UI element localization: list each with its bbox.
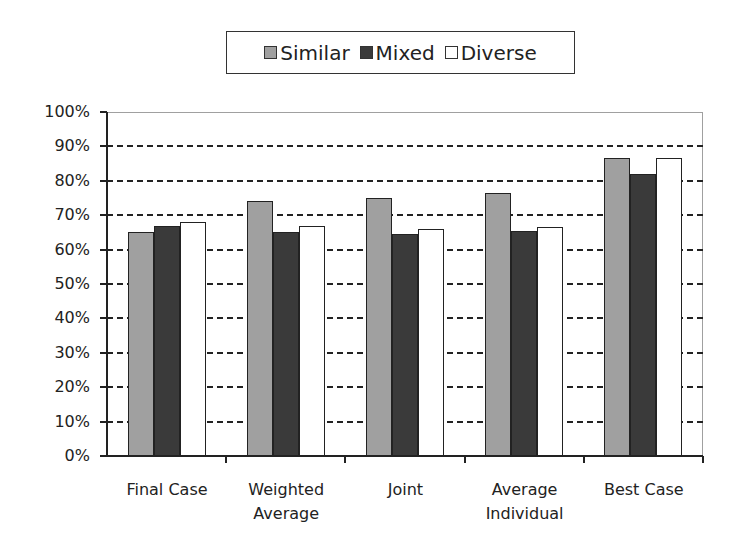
bar-diverse [656,158,682,456]
legend-item-diverse: Diverse [445,41,537,65]
y-tick-label: 100% [8,104,90,120]
legend-label: Similar [280,41,349,65]
x-category-label: AverageIndividual [465,478,585,526]
x-axis-line [107,455,703,457]
y-tick-label: 70% [8,207,90,223]
bar-mixed [511,231,537,456]
y-tick [100,145,107,147]
x-tick [344,456,346,463]
y-tick [100,180,107,182]
bar-similar [485,193,511,456]
y-tick-label: 20% [8,379,90,395]
y-tick [100,421,107,423]
y-tick-label: 50% [8,276,90,292]
y-tick [100,455,107,457]
x-category-label-line: Weighted [226,478,346,502]
bar-mixed [630,174,656,456]
x-category-label-line: Best Case [584,478,704,502]
y-tick-label: 30% [8,345,90,361]
legend-item-mixed: Mixed [360,41,435,65]
x-tick [225,456,227,463]
legend-swatch-icon [264,46,277,59]
bar-similar [604,158,630,456]
legend-label: Diverse [461,41,537,65]
y-tick [100,249,107,251]
bar-similar [366,198,392,456]
y-tick [100,386,107,388]
bar-diverse [299,226,325,456]
y-tick [100,317,107,319]
x-tick [464,456,466,463]
x-category-label-line: Joint [345,478,465,502]
y-tick [100,111,107,113]
y-tick [100,214,107,216]
y-tick-label: 0% [8,448,90,464]
plot-area [107,112,703,456]
x-category-label: WeightedAverage [226,478,346,526]
legend-swatch-icon [360,46,373,59]
legend-swatch-icon [445,46,458,59]
x-tick [583,456,585,463]
y-tick-label: 80% [8,173,90,189]
chart-legend: SimilarMixedDiverse [226,31,575,74]
bar-diverse [180,222,206,456]
x-category-label-line: Average [465,478,585,502]
x-category-label-line: Individual [465,502,585,526]
bar-similar [128,232,154,456]
legend-item-similar: Similar [264,41,349,65]
x-category-label-line: Final Case [107,478,227,502]
x-tick [702,456,704,463]
bar-mixed [273,232,299,456]
y-tick [100,283,107,285]
x-category-label: Best Case [584,478,704,502]
gridline [107,145,703,147]
bar-diverse [418,229,444,456]
legend-label: Mixed [376,41,435,65]
bar-mixed [392,234,418,456]
y-tick [100,352,107,354]
bar-similar [247,201,273,456]
x-category-label: Joint [345,478,465,502]
y-tick-label: 90% [8,138,90,154]
x-category-label-line: Average [226,502,346,526]
y-tick-label: 60% [8,242,90,258]
y-tick-label: 40% [8,310,90,326]
bar-diverse [537,227,563,456]
x-category-label: Final Case [107,478,227,502]
y-tick-label: 10% [8,414,90,430]
bar-mixed [154,226,180,456]
